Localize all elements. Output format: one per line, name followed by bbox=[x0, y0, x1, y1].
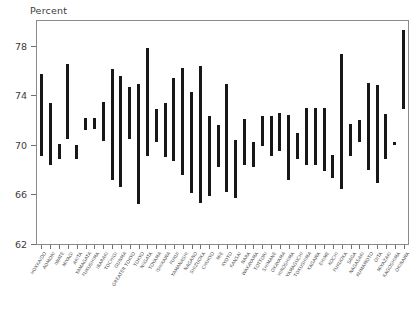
x-axis-tick bbox=[368, 245, 369, 249]
plot-area bbox=[37, 21, 408, 244]
x-axis-tick bbox=[156, 245, 157, 249]
range-bar bbox=[172, 78, 175, 161]
range-bar bbox=[155, 109, 158, 142]
x-axis-tick bbox=[192, 245, 193, 249]
range-bar bbox=[367, 83, 370, 170]
x-axis-tick bbox=[333, 245, 334, 249]
x-axis-tick bbox=[183, 245, 184, 249]
x-axis-tick bbox=[59, 245, 60, 249]
x-axis-tick bbox=[139, 245, 140, 249]
x-axis-tick bbox=[342, 245, 343, 249]
range-bar bbox=[252, 142, 255, 167]
x-axis-tick bbox=[298, 245, 299, 249]
range-bar bbox=[199, 66, 202, 204]
y-axis-tick bbox=[31, 46, 36, 47]
x-axis-tick bbox=[386, 245, 387, 249]
range-bar bbox=[75, 145, 78, 159]
range-bar bbox=[314, 108, 317, 165]
axis-title: Percent bbox=[30, 5, 67, 16]
range-bar bbox=[93, 118, 96, 129]
y-axis-tick-label: 66 bbox=[15, 189, 27, 200]
x-axis-tick bbox=[174, 245, 175, 249]
range-bar bbox=[234, 140, 237, 198]
x-axis-tick bbox=[41, 245, 42, 249]
x-axis-tick bbox=[121, 245, 122, 249]
range-bar bbox=[137, 84, 140, 204]
range-bar bbox=[323, 108, 326, 171]
x-axis-tick bbox=[218, 245, 219, 249]
range-bar bbox=[119, 76, 122, 188]
range-bar bbox=[296, 133, 299, 159]
range-bar bbox=[111, 69, 114, 179]
range-bar-chart: Percent 6266707478 HOKKAIDOAOMORIIWATEMI… bbox=[0, 0, 415, 313]
y-axis-tick bbox=[31, 194, 36, 195]
x-axis-tick bbox=[289, 245, 290, 249]
range-bar bbox=[331, 155, 334, 179]
x-axis-tick bbox=[351, 245, 352, 249]
y-axis-tick-label: 62 bbox=[15, 239, 27, 250]
range-bar bbox=[208, 116, 211, 195]
x-axis-tick bbox=[262, 245, 263, 249]
x-axis-tick bbox=[377, 245, 378, 249]
range-bar bbox=[358, 120, 361, 142]
x-axis-tick bbox=[209, 245, 210, 249]
x-axis-tick bbox=[306, 245, 307, 249]
range-bar bbox=[84, 118, 87, 130]
x-axis-tick bbox=[112, 245, 113, 249]
range-bar bbox=[102, 102, 105, 142]
x-axis-tick bbox=[147, 245, 148, 249]
x-axis-tick bbox=[130, 245, 131, 249]
range-bar bbox=[40, 74, 43, 156]
y-axis-tick bbox=[31, 95, 36, 96]
range-bar bbox=[349, 124, 352, 156]
range-bar bbox=[128, 87, 131, 139]
range-bar bbox=[217, 125, 220, 167]
range-bar bbox=[340, 54, 343, 189]
y-axis-tick bbox=[31, 244, 36, 245]
x-axis-tick bbox=[103, 245, 104, 249]
range-bar bbox=[164, 103, 167, 158]
range-bar bbox=[270, 116, 273, 156]
x-axis-tick bbox=[271, 245, 272, 249]
y-axis-tick-label: 78 bbox=[15, 40, 27, 51]
x-axis-tick bbox=[245, 245, 246, 249]
range-bar bbox=[384, 114, 387, 159]
range-bar bbox=[305, 108, 308, 165]
x-axis-tick bbox=[253, 245, 254, 249]
x-axis-tick bbox=[50, 245, 51, 249]
y-axis-tick bbox=[31, 145, 36, 146]
y-axis-tick-label: 70 bbox=[15, 139, 27, 150]
range-bar bbox=[190, 92, 193, 194]
range-bar bbox=[49, 103, 52, 165]
range-bar bbox=[278, 113, 281, 151]
x-axis-tick bbox=[86, 245, 87, 249]
x-axis-tick bbox=[395, 245, 396, 249]
x-axis-tick bbox=[404, 245, 405, 249]
x-axis-tick bbox=[315, 245, 316, 249]
y-axis-tick-label: 74 bbox=[15, 90, 27, 101]
x-axis-tick bbox=[227, 245, 228, 249]
range-bar bbox=[261, 116, 264, 146]
range-bar bbox=[376, 85, 379, 183]
x-axis-tick bbox=[77, 245, 78, 249]
x-axis-tick bbox=[280, 245, 281, 249]
range-bar bbox=[402, 30, 405, 109]
x-axis-tick bbox=[165, 245, 166, 249]
range-bar bbox=[243, 119, 246, 165]
x-axis-tick bbox=[359, 245, 360, 249]
range-bar bbox=[146, 48, 149, 156]
x-axis-tick bbox=[200, 245, 201, 249]
x-axis-tick bbox=[324, 245, 325, 249]
x-axis-tick bbox=[236, 245, 237, 249]
range-bar bbox=[225, 84, 228, 192]
range-bar bbox=[181, 68, 184, 175]
range-bar bbox=[66, 64, 69, 138]
range-bar bbox=[393, 142, 396, 144]
x-axis-tick bbox=[68, 245, 69, 249]
x-axis-tick bbox=[94, 245, 95, 249]
range-bar bbox=[58, 144, 61, 159]
range-bar bbox=[287, 115, 290, 179]
